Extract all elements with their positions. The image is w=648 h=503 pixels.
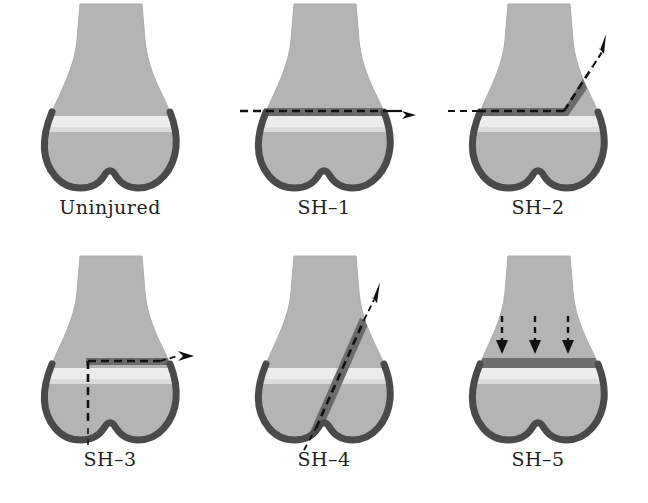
arrowhead [402,111,416,119]
panel-label-sh-4: SH–4 [216,448,432,470]
panel-sh-2: SH–2 [430,0,646,251]
bone-diagram-sh-1 [216,0,432,215]
bone-diagram-sh-4 [216,252,432,467]
arrowhead [371,282,380,303]
panel-uninjured: Uninjured [2,0,218,251]
bone-body [2,4,218,188]
growth-plate [216,368,432,379]
panel-sh-4: SH–4 [216,252,432,503]
panel-sh-1: SH–1 [216,0,432,251]
arrowhead [598,34,606,54]
panel-sh-3: SH–3 [2,252,218,503]
bone-diagram-sh-5 [430,252,646,467]
salter-harris-figure: Uninjured [0,0,648,503]
arrowhead [178,351,194,361]
panel-label-uninjured: Uninjured [2,196,218,218]
panel-label-sh-5: SH–5 [430,448,646,470]
panel-label-sh-1: SH–1 [216,196,432,218]
bone-diagram-uninjured [2,0,218,215]
panel-sh-5: SH–5 [430,252,646,503]
bone-body [216,4,432,188]
bone-body [430,4,646,188]
growth-plate [2,116,218,127]
growth-plate [2,368,218,379]
bone-body [430,256,646,440]
bone-diagram-sh-2 [430,0,646,215]
panel-label-sh-3: SH–3 [2,448,218,470]
bone-body [2,256,218,440]
growth-plate [216,116,432,127]
panel-label-sh-2: SH–2 [430,196,646,218]
growth-plate-crushed [430,358,646,368]
growth-plate [430,368,646,379]
growth-plate [430,116,646,127]
bone-diagram-sh-3 [2,252,218,467]
